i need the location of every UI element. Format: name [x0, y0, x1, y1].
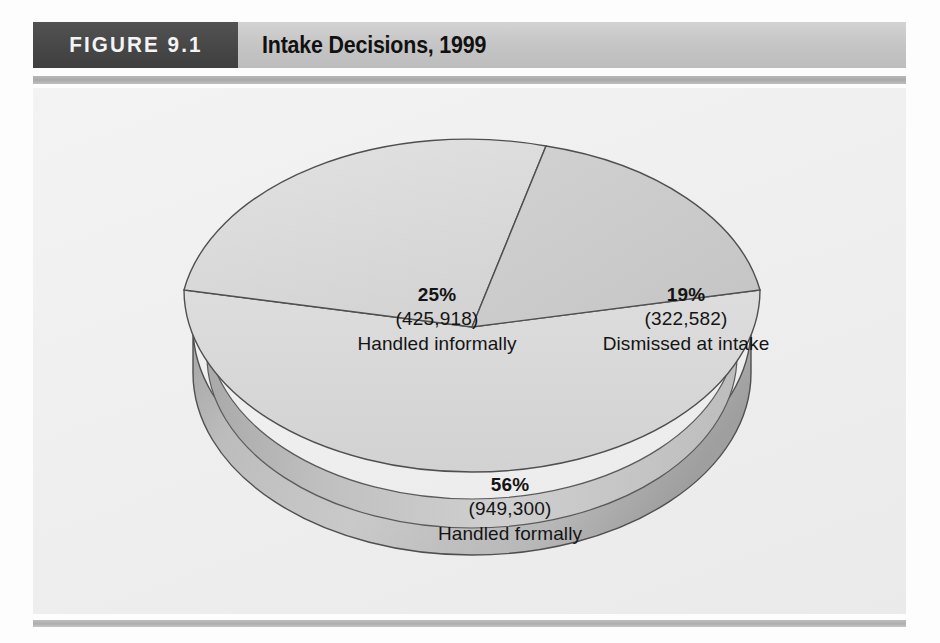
figure-container: FIGURE 9.1 Intake Decisions, 1999 — [0, 0, 940, 643]
pie-count-dismissed-at-intake: (322,582) — [561, 307, 811, 331]
pie-percent-dismissed-at-intake: 19% — [561, 283, 811, 307]
pie-name-handled-formally: Handled formally — [385, 522, 635, 546]
pie-count-handled-informally: (425,918) — [317, 307, 557, 331]
pie-percent-handled-formally: 56% — [385, 473, 635, 497]
header-divider-rule — [33, 76, 906, 84]
pie-name-dismissed-at-intake: Dismissed at intake — [561, 332, 811, 356]
pie-percent-handled-informally: 25% — [317, 283, 557, 307]
pie-name-handled-informally: Handled informally — [317, 332, 557, 356]
figure-title-text: Intake Decisions, 1999 — [262, 22, 486, 68]
pie-label-dismissed-at-intake: 19% (322,582) Dismissed at intake — [561, 283, 811, 356]
pie-count-handled-formally: (949,300) — [385, 497, 635, 521]
pie-label-handled-informally: 25% (425,918) Handled informally — [317, 283, 557, 356]
chart-plot-area: 25% (425,918) Handled informally 19% (32… — [33, 88, 906, 614]
figure-number-label: FIGURE 9.1 — [69, 32, 202, 58]
footer-divider-rule — [33, 620, 906, 627]
pie-label-handled-formally: 56% (949,300) Handled formally — [385, 473, 635, 546]
figure-number-badge: FIGURE 9.1 — [33, 22, 238, 68]
